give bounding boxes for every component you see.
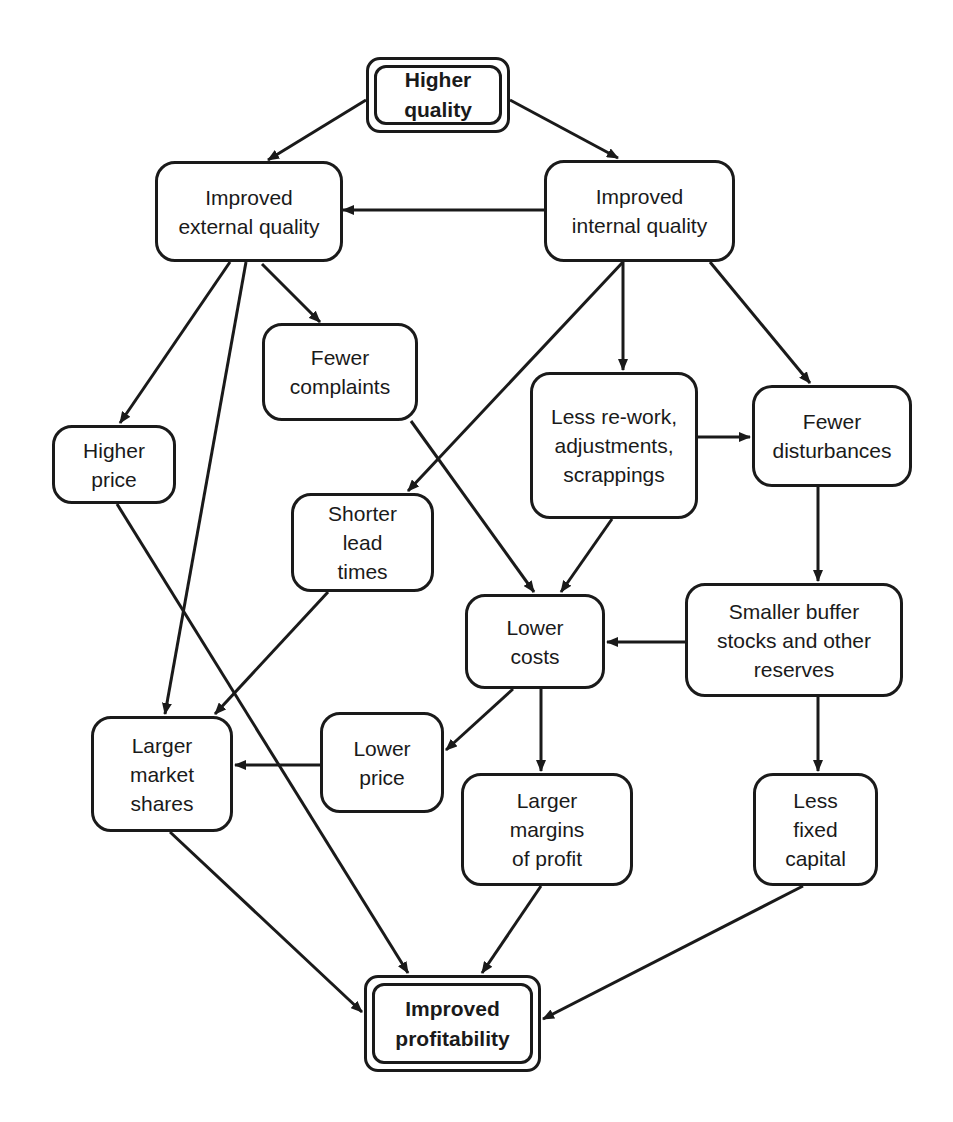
node-higher-price: Higher price (52, 425, 176, 504)
arrow-larger_margins_of_profit-to-improved_profitability (482, 886, 541, 973)
node-label: Lower costs (506, 613, 563, 671)
node-label: Improved profitability (395, 994, 509, 1054)
node-improved-external-quality: Improved external quality (155, 161, 343, 262)
node-label: Lower price (353, 734, 410, 792)
node-shorter-lead-times: Shorter lead times (291, 493, 434, 592)
node-label: Larger margins of profit (510, 786, 585, 873)
arrow-improved_external_quality-to-higher_price (120, 262, 230, 423)
arrow-improved_internal_quality-to-fewer_disturbances (710, 262, 810, 383)
node-improved-internal-quality: Improved internal quality (544, 160, 735, 262)
arrow-higher_quality-to-improved_external_quality (268, 100, 366, 160)
node-larger-margins-of-profit: Larger margins of profit (461, 773, 633, 886)
node-label: Larger market shares (130, 731, 194, 818)
node-label: Less fixed capital (785, 786, 846, 873)
node-higher-quality: Higher quality (366, 57, 510, 133)
node-improved-profitability: Improved profitability (364, 975, 541, 1072)
node-label: Higher quality (404, 65, 472, 125)
node-less-fixed-capital: Less fixed capital (753, 773, 878, 886)
arrow-less_fixed_capital-to-improved_profitability (543, 886, 803, 1019)
node-smaller-buffer-stocks: Smaller buffer stocks and other reserves (685, 583, 903, 697)
node-label: Smaller buffer stocks and other reserves (717, 597, 871, 684)
arrow-shorter_lead_times-to-larger_market_shares (215, 592, 328, 714)
node-label: Improved external quality (178, 183, 319, 241)
arrow-higher_quality-to-improved_internal_quality (510, 100, 618, 158)
arrow-larger_market_shares-to-improved_profitability (170, 832, 362, 1012)
connector-arrows (0, 0, 953, 1122)
node-label: Fewer disturbances (772, 407, 891, 465)
arrow-lower_costs-to-lower_price (446, 689, 513, 750)
node-larger-market-shares: Larger market shares (91, 716, 233, 832)
node-less-rework: Less re-work, adjustments, scrappings (530, 372, 698, 519)
node-label: Less re-work, adjustments, scrappings (551, 402, 677, 489)
node-lower-price: Lower price (320, 712, 444, 813)
node-fewer-complaints: Fewer complaints (262, 323, 418, 421)
node-label: Higher price (83, 436, 145, 494)
node-label: Shorter lead times (328, 499, 397, 586)
node-label: Fewer complaints (290, 343, 390, 401)
arrow-improved_external_quality-to-fewer_complaints (262, 264, 320, 322)
node-label: Improved internal quality (572, 182, 707, 240)
quality-profitability-diagram: Higher quality Improved external quality… (0, 0, 953, 1122)
arrow-less_rework-to-lower_costs (561, 519, 612, 592)
node-fewer-disturbances: Fewer disturbances (752, 385, 912, 487)
node-lower-costs: Lower costs (465, 594, 605, 689)
